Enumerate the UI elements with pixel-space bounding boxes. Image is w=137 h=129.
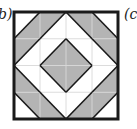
quilt-pattern-figure xyxy=(12,10,120,121)
figure-label-c: (c xyxy=(124,7,137,21)
figure-label-b: b) xyxy=(0,7,12,21)
